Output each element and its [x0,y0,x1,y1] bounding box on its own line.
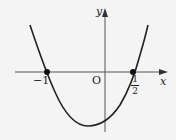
plot-area [0,0,176,140]
x-axis-label: x [160,76,166,87]
root-left-label: −1 [33,75,49,86]
y-axis-arrow-icon [102,8,108,17]
fraction-numerator: 1 [131,75,139,86]
parabola-figure: y x O −1 1 2 [0,0,176,140]
fraction-denominator: 2 [131,86,139,96]
root-right-label: 1 2 [131,75,139,96]
y-axis-label: y [96,6,102,17]
origin-label: O [92,75,101,86]
